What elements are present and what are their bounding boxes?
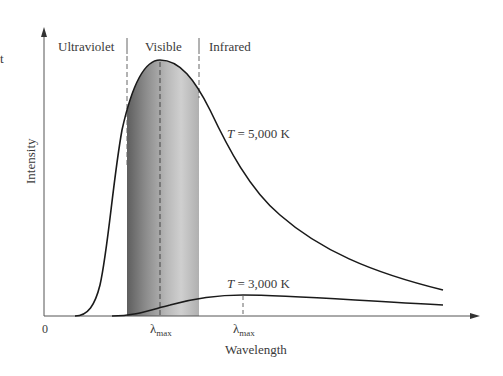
temperature-label-5000k: T = 5,000 K — [227, 126, 291, 141]
lambda-max-label-5000k: λmax — [150, 321, 172, 338]
y-axis — [41, 27, 47, 316]
edge-text-fragment: t — [0, 51, 4, 66]
y-axis-label: Intensity — [23, 138, 38, 184]
visible-band — [127, 50, 199, 316]
temperature-label-3000k: T = 3,000 K — [227, 276, 291, 291]
region-label-infrared: Infrared — [209, 39, 251, 54]
region-label-visible: Visible — [145, 39, 182, 54]
region-label-ultraviolet: Ultraviolet — [58, 39, 115, 54]
blackbody-diagram: Ultraviolet Visible Infrared T = 5,000 K… — [0, 0, 503, 376]
x-axis — [44, 313, 480, 319]
x-axis-label: Wavelength — [225, 342, 287, 357]
origin-label: 0 — [42, 322, 48, 336]
lambda-max-label-3000k: λmax — [233, 321, 255, 338]
